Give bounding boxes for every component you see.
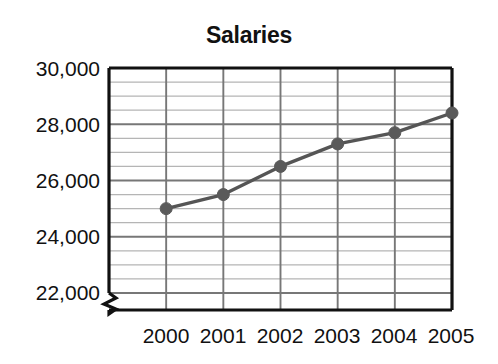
axis-break-icon bbox=[104, 293, 116, 314]
plot-area bbox=[0, 0, 498, 364]
chart-figure: Salaries 30,000 28,000 26,000 24,000 22,… bbox=[0, 0, 498, 364]
vertical-gridlines bbox=[166, 68, 395, 310]
